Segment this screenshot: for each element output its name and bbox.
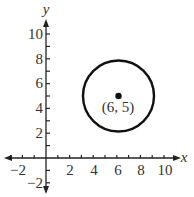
y-axis-down-arrow-icon [43, 186, 49, 194]
y-tick-label: 6 [36, 75, 44, 91]
y-tick-label: −2 [27, 175, 43, 191]
y-axis-label: y [41, 1, 50, 17]
y-axis-up-arrow-icon [43, 19, 49, 27]
y-tick-label: 10 [28, 26, 43, 42]
y-tick-label: 8 [36, 51, 44, 67]
center-point-label: (6, 5) [102, 99, 135, 116]
x-tick-label: 2 [66, 162, 74, 178]
coordinate-plane: −2 2 4 6 8 10 x 10 8 6 4 2 −2 [0, 0, 194, 197]
x-tick-label: 4 [90, 162, 98, 178]
y-tick-label: 2 [36, 125, 44, 141]
x-axis: −2 2 4 6 8 10 x [4, 149, 188, 178]
x-tick-label: 10 [158, 162, 173, 178]
y-axis: 10 8 6 4 2 −2 y [27, 1, 50, 194]
x-tick-label: 6 [114, 162, 122, 178]
x-tick-label: 8 [137, 162, 145, 178]
x-axis-label: x [180, 149, 188, 165]
x-tick-label: −2 [10, 162, 26, 178]
y-tick-label: 4 [36, 100, 44, 116]
